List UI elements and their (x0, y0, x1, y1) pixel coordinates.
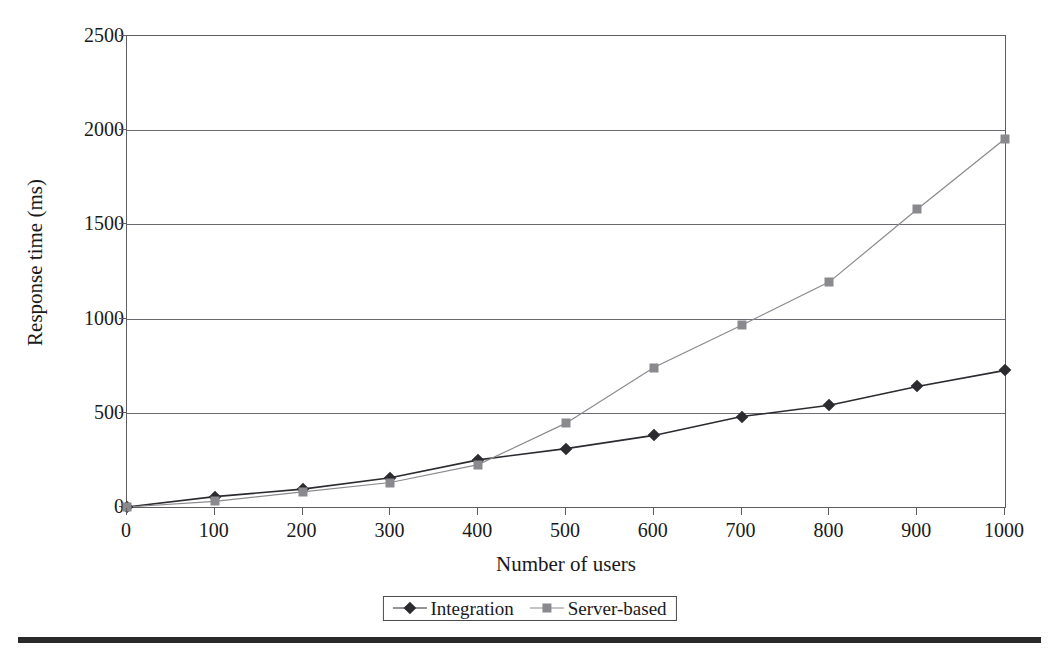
data-point-marker (562, 419, 571, 428)
y-axis-tick-label: 2500 (6, 25, 124, 45)
x-axis-tick-label: 1000 (984, 520, 1024, 540)
data-point-marker (737, 321, 746, 330)
figure-root: Response time (ms) 05001000150020002500 … (0, 0, 1059, 664)
legend-swatch-square-icon (530, 601, 564, 615)
x-axis-tick-label: 0 (121, 520, 131, 540)
data-point-marker (1001, 134, 1010, 143)
x-axis-tick-label: 500 (550, 520, 580, 540)
x-axis-tick-label: 700 (726, 520, 756, 540)
series-lines (127, 36, 1005, 507)
legend-entry: Integration (392, 599, 513, 618)
x-axis-tick-mark (741, 508, 742, 515)
figure-caption (18, 652, 1041, 664)
x-axis-title: Number of users (126, 552, 1006, 577)
y-axis-tick-labels: 05001000150020002500 (0, 35, 124, 508)
data-point-marker (913, 205, 922, 214)
x-axis-tick-label: 900 (901, 520, 931, 540)
x-axis-tick-mark (302, 508, 303, 515)
y-axis-tick-label: 2000 (6, 119, 124, 139)
data-point-marker (649, 363, 658, 372)
x-axis-tick-label: 800 (813, 520, 843, 540)
y-axis-tick-label: 1000 (6, 308, 124, 328)
clipped-header-text (0, 0, 1059, 4)
x-axis-tick-mark (565, 508, 566, 515)
y-axis-tick-label: 500 (6, 402, 124, 422)
data-point-marker (210, 497, 219, 506)
legend-swatch-diamond-icon (392, 601, 426, 615)
y-axis-tick-marks (119, 35, 126, 508)
data-point-marker (825, 277, 834, 286)
legend-label: Integration (430, 599, 513, 618)
data-point-marker (474, 460, 483, 469)
x-axis-tick-mark (477, 508, 478, 515)
x-axis-tick-mark (389, 508, 390, 515)
y-axis-tick-mark (119, 223, 126, 224)
y-axis-tick-label: 0 (6, 496, 124, 516)
caption-divider-rule (18, 637, 1041, 643)
x-axis-tick-label: 600 (638, 520, 668, 540)
x-axis-tick-mark (916, 508, 917, 515)
x-axis-tick-label: 300 (374, 520, 404, 540)
x-axis-tick-mark (214, 508, 215, 515)
legend-entry: Server-based (530, 599, 667, 618)
x-axis-tick-mark (828, 508, 829, 515)
x-axis-tick-mark (1004, 508, 1005, 515)
chart-legend: IntegrationServer-based (382, 596, 676, 621)
legend-label: Server-based (568, 599, 667, 618)
response-time-line-chart: Response time (ms) 05001000150020002500 … (0, 14, 1059, 584)
x-axis-tick-label: 100 (199, 520, 229, 540)
y-axis-tick-mark (119, 35, 126, 36)
x-axis-tick-mark (126, 508, 127, 515)
x-axis-tick-label: 400 (462, 520, 492, 540)
y-axis-tick-mark (119, 129, 126, 130)
series-line-integration (127, 370, 1005, 507)
x-axis-tick-label: 200 (287, 520, 317, 540)
data-point-marker (386, 478, 395, 487)
y-axis-tick-mark (119, 318, 126, 319)
data-point-marker (298, 487, 307, 496)
y-axis-tick-label: 1500 (6, 213, 124, 233)
plot-area (126, 35, 1006, 508)
x-axis-tick-mark (653, 508, 654, 515)
y-axis-tick-mark (119, 412, 126, 413)
